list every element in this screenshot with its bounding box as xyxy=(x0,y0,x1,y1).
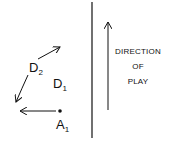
a1-position-dot xyxy=(58,109,62,113)
d2-label: D2 xyxy=(29,61,43,77)
direction-label-line3: PLAY xyxy=(112,77,164,86)
d2-back-arrow xyxy=(16,75,28,102)
direction-label-line1: DIRECTION xyxy=(112,47,164,56)
d2-forward-arrow xyxy=(38,47,60,59)
diagram-canvas xyxy=(0,0,171,147)
d1-label: D1 xyxy=(53,77,67,93)
a1-label: A1 xyxy=(56,118,69,134)
direction-label-line2: OF xyxy=(112,62,164,71)
